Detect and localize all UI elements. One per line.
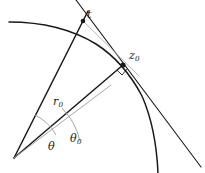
point-t: [81, 19, 86, 24]
ray-to-z0: [14, 65, 123, 158]
geometry-canvas: [0, 0, 205, 173]
label-z0: z0: [129, 50, 140, 62]
point-z0: [120, 62, 125, 67]
circle-arc: [9, 22, 158, 173]
tangent-line: [76, 0, 201, 167]
label-theta0: θ0: [70, 133, 81, 145]
label-r0: r0: [53, 96, 63, 108]
label-theta: θ: [48, 141, 55, 153]
label-t: t: [87, 9, 92, 21]
geometry-figure: t z0 r0 θ θ0: [0, 0, 205, 173]
